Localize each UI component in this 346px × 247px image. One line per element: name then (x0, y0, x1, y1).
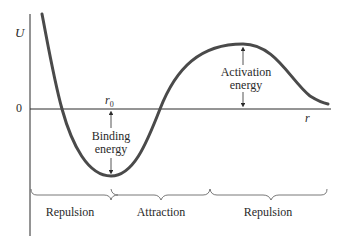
region-label-repulsion-right: Repulsion (244, 206, 293, 219)
binding-energy-label-line2: energy (95, 143, 127, 156)
potential-energy-curve (42, 14, 328, 176)
r0-label: r0 (105, 94, 114, 111)
zero-label: 0 (16, 102, 22, 115)
brace-attraction (111, 189, 210, 200)
brace-repulsion-left (31, 189, 118, 200)
y-axis-label: U (15, 26, 24, 39)
region-label-attraction: Attraction (137, 206, 186, 219)
r0-subscript: 0 (110, 100, 114, 109)
x-axis-label: r (305, 112, 310, 125)
brace-repulsion-right (210, 189, 327, 200)
potential-energy-diagram: U 0 r r0 Binding energy Activation energ… (0, 0, 346, 247)
activation-energy-label-line2: energy (230, 79, 262, 92)
region-label-repulsion-left: Repulsion (46, 206, 95, 219)
